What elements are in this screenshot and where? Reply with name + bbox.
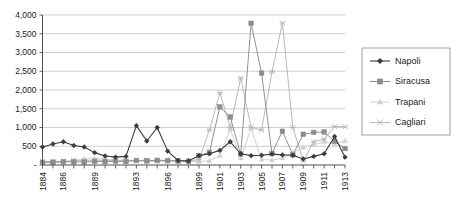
y-tick-label: 3,000: [15, 47, 37, 57]
x-tick-label: 1911: [319, 172, 329, 191]
y-tick-label: 1,500: [15, 104, 37, 114]
data-point-square: [82, 160, 87, 165]
data-point-diamond: [311, 154, 316, 159]
x-tick-label: 1889: [90, 172, 100, 191]
data-point-diamond: [343, 155, 348, 160]
legend: NapoliSiracusaTrapaniCagliari: [362, 48, 450, 135]
data-point-square: [218, 105, 223, 110]
data-point-square: [259, 71, 264, 76]
data-point-square: [280, 129, 285, 134]
data-point-square: [61, 159, 66, 164]
x-tick-label: 1913: [340, 172, 350, 191]
series-layer: [40, 20, 348, 164]
y-tick-label: 2,500: [15, 66, 37, 76]
x-tick-label: 1886: [58, 172, 68, 191]
x-axis-labels-group: 1884188618891893189618991901190319051907…: [38, 172, 351, 191]
y-tick-label: 1,000: [15, 122, 37, 132]
y-tick-label: 3,500: [15, 29, 37, 39]
data-point-diamond: [249, 153, 254, 158]
y-tick-label: 4,000: [15, 10, 37, 20]
x-tick-label: 1893: [131, 172, 141, 191]
data-point-square: [155, 158, 160, 163]
data-point-diamond: [51, 142, 56, 147]
x-tick-label: 1907: [277, 172, 287, 191]
y-tick-label: 2,000: [15, 85, 37, 95]
y-tick-label: 500: [22, 141, 36, 151]
data-point-star: [206, 128, 212, 133]
legend-label: Trapani: [395, 97, 425, 107]
data-point-star: [332, 124, 338, 129]
data-point-square: [145, 159, 150, 164]
data-point-square: [311, 130, 316, 135]
x-tick-label: 1884: [38, 172, 48, 191]
data-point-diamond: [82, 145, 87, 150]
data-point-square: [249, 21, 254, 26]
data-point-square: [165, 158, 170, 163]
gridlines-group: [43, 15, 346, 146]
data-point-square: [71, 160, 76, 165]
data-point-diamond: [103, 154, 108, 159]
data-point-square: [322, 130, 327, 135]
data-point-square: [301, 132, 306, 137]
data-point-diamond: [332, 134, 337, 139]
x-tick-label: 1909: [298, 172, 308, 191]
data-point-diamond: [280, 152, 285, 157]
x-tick-label: 1903: [236, 172, 246, 191]
x-tick-label: 1905: [257, 172, 267, 191]
data-point-diamond: [124, 154, 129, 159]
series-line: [43, 23, 346, 162]
line-chart: -5001,0001,5002,0002,5003,0003,5004,000 …: [0, 0, 453, 208]
data-point-square: [92, 159, 97, 164]
data-point-diamond: [322, 151, 327, 156]
data-point-square: [343, 146, 348, 151]
legend-label: Cagliari: [395, 117, 426, 127]
data-point-square: [124, 159, 129, 164]
data-point-diamond: [92, 150, 97, 155]
series-siracusa: [40, 21, 347, 165]
data-point-square: [103, 159, 108, 164]
x-tick-label: 1901: [215, 172, 225, 191]
data-point-square: [51, 160, 56, 165]
series-napoli: [40, 123, 347, 163]
data-point-square: [228, 115, 233, 120]
legend-label: Siracusa: [395, 76, 430, 86]
x-tick-label: 1899: [194, 172, 204, 191]
chart-container: -5001,0001,5002,0002,5003,0003,5004,000 …: [0, 0, 453, 208]
series-cagliari: [40, 20, 348, 164]
data-point-star: [342, 124, 348, 129]
series-line: [43, 126, 346, 161]
data-point-square: [377, 79, 382, 84]
data-point-triangle: [343, 138, 348, 142]
legend-label: Napoli: [395, 56, 421, 66]
x-axis-ticks-group: [43, 165, 346, 169]
data-point-diamond: [61, 139, 66, 144]
x-tick-label: 1896: [163, 172, 173, 191]
y-tick-label: -: [34, 160, 37, 170]
data-point-diamond: [71, 143, 76, 148]
data-point-square: [134, 158, 139, 163]
data-point-triangle: [217, 153, 222, 157]
y-axis-labels-group: -5001,0001,5002,0002,5003,0003,5004,000: [15, 10, 37, 170]
